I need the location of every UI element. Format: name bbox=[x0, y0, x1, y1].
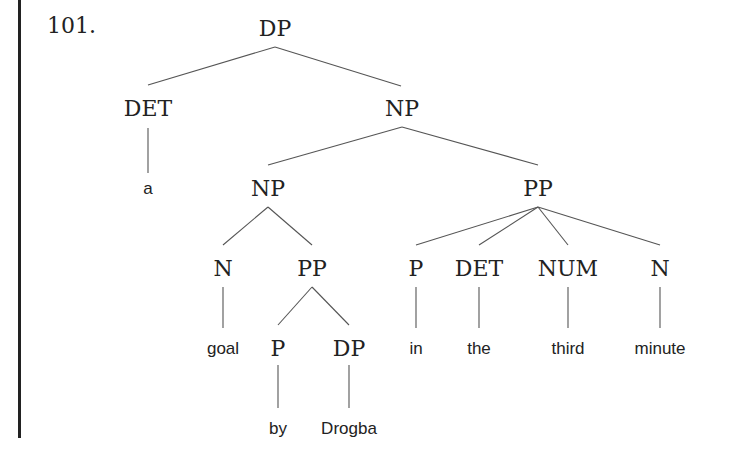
tree-edge bbox=[538, 207, 660, 245]
tree-edge bbox=[402, 127, 538, 165]
tree-leaf-a: a bbox=[143, 179, 153, 198]
tree-node-np: NP bbox=[385, 96, 419, 121]
tree-leaf-the: the bbox=[467, 339, 491, 358]
tree-edge bbox=[148, 47, 275, 85]
tree-leaf-drogba: Drogba bbox=[321, 419, 377, 438]
tree-node-pp: PP bbox=[523, 176, 553, 201]
tree-leaf-by: by bbox=[269, 419, 287, 438]
tree-edge bbox=[538, 207, 568, 245]
syntax-tree-figure: 101. DPDETNPaNPPPNPPPDETNUMNgoalPDPinthe… bbox=[0, 0, 735, 470]
tree-node-dp: DP bbox=[259, 16, 292, 41]
tree-node-num: NUM bbox=[538, 256, 598, 281]
tree-leaf-goal: goal bbox=[207, 339, 239, 358]
tree-edge bbox=[268, 207, 312, 245]
tree-node-det: DET bbox=[455, 256, 504, 281]
tree-node-det: DET bbox=[124, 96, 173, 121]
tree-edge bbox=[479, 207, 538, 245]
tree-leaf-third: third bbox=[551, 339, 584, 358]
tree-node-n: N bbox=[650, 256, 669, 281]
tree-edge bbox=[312, 287, 349, 325]
tree-node-np: NP bbox=[251, 176, 285, 201]
tree-node-n: N bbox=[213, 256, 232, 281]
tree-node-p: P bbox=[409, 256, 424, 281]
tree-node-dp: DP bbox=[333, 336, 366, 361]
tree-edge bbox=[416, 207, 538, 245]
tree-leaf-minute: minute bbox=[634, 339, 685, 358]
tree-leaf-in: in bbox=[409, 339, 422, 358]
tree-node-p: P bbox=[271, 336, 286, 361]
syntax-tree: DPDETNPaNPPPNPPPDETNUMNgoalPDPinthethird… bbox=[0, 0, 735, 470]
tree-edge bbox=[278, 287, 312, 325]
tree-edge bbox=[268, 127, 402, 165]
tree-node-pp: PP bbox=[297, 256, 327, 281]
tree-edge bbox=[275, 47, 401, 86]
tree-edge bbox=[223, 207, 268, 245]
